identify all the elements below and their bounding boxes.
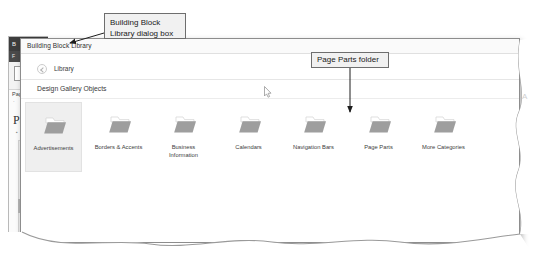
callout-page-parts-folder: Page Parts folder [311,52,389,68]
screenshot-stage: B F Pag · Pa ▪ Building Block Library Li… [0,0,542,277]
leader-line-dialog [70,33,104,43]
callout-leader-lines [0,0,542,277]
callout-building-block-library: Building Block Library dialog box [104,13,186,39]
